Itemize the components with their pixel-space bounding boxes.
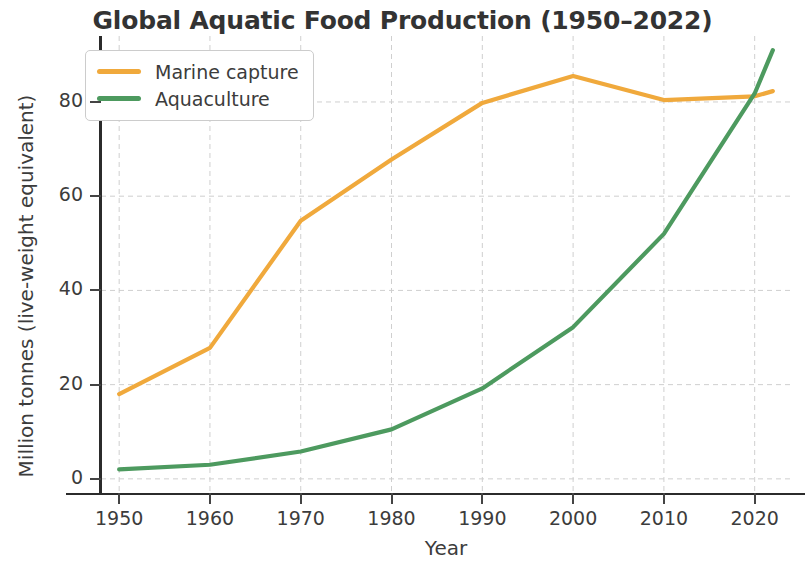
x-tick-label: 1970 — [256, 507, 346, 529]
legend-item-label: Marine capture — [155, 61, 299, 83]
x-tick-label: 1980 — [347, 507, 437, 529]
x-tick-label: 2020 — [710, 507, 800, 529]
chart-legend: Marine captureAquaculture — [85, 50, 314, 121]
y-tick-label: 80 — [3, 89, 83, 111]
x-tick-label: 1990 — [437, 507, 527, 529]
x-tick-mark — [754, 493, 756, 504]
x-tick-mark — [663, 493, 665, 504]
chart-figure: Global Aquatic Food Production (1950–202… — [0, 0, 805, 569]
y-tick-label: 20 — [3, 372, 83, 394]
legend-item[interactable]: Marine capture — [97, 58, 299, 85]
x-tick-label: 2010 — [619, 507, 709, 529]
y-tick-mark — [90, 384, 101, 386]
x-tick-mark — [481, 493, 483, 504]
chart-title: Global Aquatic Food Production (1950–202… — [0, 6, 805, 35]
y-tick-label: 40 — [3, 277, 83, 299]
x-tick-label: 1950 — [74, 507, 164, 529]
legend-item-label: Aquaculture — [155, 88, 270, 110]
x-tick-mark — [118, 493, 120, 504]
x-tick-mark — [391, 493, 393, 504]
x-tick-mark — [209, 493, 211, 504]
legend-item[interactable]: Aquaculture — [97, 85, 299, 112]
y-tick-label: 60 — [3, 183, 83, 205]
legend-color-swatch — [97, 69, 141, 74]
x-axis-title: Year — [101, 536, 791, 560]
legend-color-swatch — [97, 96, 141, 101]
series-line-marine-capture — [119, 76, 773, 394]
y-tick-mark — [90, 289, 101, 291]
x-tick-label: 1960 — [165, 507, 255, 529]
x-tick-mark — [300, 493, 302, 504]
x-tick-label: 2000 — [528, 507, 618, 529]
y-tick-label: 0 — [3, 466, 83, 488]
y-tick-mark — [90, 101, 101, 103]
x-tick-mark — [572, 493, 574, 504]
y-tick-mark — [90, 478, 101, 480]
x-axis-spine — [66, 493, 805, 496]
y-tick-mark — [90, 195, 101, 197]
